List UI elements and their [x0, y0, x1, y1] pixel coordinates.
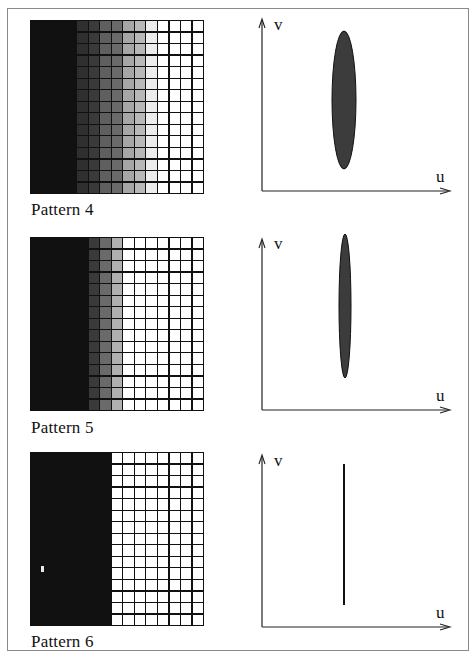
grid-cell [170, 90, 180, 100]
grid-cell [31, 21, 41, 31]
grid-cell [112, 377, 122, 387]
grid-cell [193, 476, 203, 486]
grid-cell [181, 615, 191, 625]
grid-cell [146, 296, 156, 306]
grid-cell [31, 113, 41, 123]
grid-cell [66, 592, 76, 602]
grid-cell [77, 102, 87, 112]
grid-cell [123, 353, 133, 363]
grid-cell [193, 21, 203, 31]
grid-cell [181, 557, 191, 567]
grid-cell [158, 342, 168, 352]
spectrum-svg: v u [250, 228, 460, 418]
grid-cell [146, 545, 156, 555]
grid-cell [89, 284, 99, 294]
grid-cell [77, 365, 87, 375]
grid-cell [43, 592, 53, 602]
grid-cell [100, 499, 110, 509]
grid-cell [123, 56, 133, 66]
grid-cell [100, 400, 110, 410]
grid-cell [77, 171, 87, 181]
grid-cell [181, 388, 191, 398]
grid-cell [193, 273, 203, 283]
grid-cell [181, 488, 191, 498]
grid-cell [43, 534, 53, 544]
grid-cell [146, 21, 156, 31]
grid-cell [43, 21, 53, 31]
grid-cell [146, 67, 156, 77]
grid-cell [135, 388, 145, 398]
grid-cell [158, 79, 168, 89]
grid-cell [193, 522, 203, 532]
grid-cell [43, 136, 53, 146]
grid-cell [54, 261, 64, 271]
grid-cell [43, 545, 53, 555]
grid-cell [135, 261, 145, 271]
grid-cell [54, 284, 64, 294]
grid-cell [100, 465, 110, 475]
grid-cell [158, 365, 168, 375]
grid-cell [181, 307, 191, 317]
grid-cell [100, 568, 110, 578]
grid-cell [123, 580, 133, 590]
grid-cell [66, 330, 76, 340]
grid-cell [193, 284, 203, 294]
grid-cell [193, 465, 203, 475]
grid-cell [193, 307, 203, 317]
grid-cell [54, 148, 64, 158]
grid-cell [54, 534, 64, 544]
grid-cell [158, 545, 168, 555]
grid-cell [181, 545, 191, 555]
grid-cell [123, 284, 133, 294]
grid-cell [54, 365, 64, 375]
grid-cell [43, 453, 53, 463]
grid-cell [89, 545, 99, 555]
grid-cell [135, 534, 145, 544]
grid-cell [170, 511, 180, 521]
grid-cell [66, 568, 76, 578]
grid-cell [158, 273, 168, 283]
grid-cell [193, 592, 203, 602]
grid-cell [43, 476, 53, 486]
grid-cell [54, 388, 64, 398]
grid-cell [170, 67, 180, 77]
grid-cell [193, 125, 203, 135]
grid-cell [112, 330, 122, 340]
grid-cell [181, 603, 191, 613]
grid-cell [77, 592, 87, 602]
grid-cell [170, 557, 180, 567]
grid-cell [54, 615, 64, 625]
grid-cell [43, 330, 53, 340]
grid-cell [77, 136, 87, 146]
grid-cell [170, 33, 180, 43]
spectrum-svg: v u [250, 444, 460, 634]
grid-cell [146, 511, 156, 521]
grid-cell [43, 261, 53, 271]
grid-cell [89, 353, 99, 363]
grid-cell [112, 511, 122, 521]
grid-cell [54, 580, 64, 590]
grid-cell [100, 160, 110, 170]
grid-cell [123, 557, 133, 567]
grid-cell [43, 90, 53, 100]
grid-cell [181, 476, 191, 486]
grid-cell [89, 534, 99, 544]
grid-cell [31, 33, 41, 43]
grid-cell [112, 465, 122, 475]
grid-cell [112, 238, 122, 248]
grid-cell [181, 148, 191, 158]
grid-cell [146, 568, 156, 578]
grid-cell [43, 284, 53, 294]
grid-cell [66, 499, 76, 509]
grid-cell [146, 476, 156, 486]
grid-cell [135, 21, 145, 31]
grid-cell [135, 67, 145, 77]
grid-cell [123, 250, 133, 260]
grid-cell [158, 33, 168, 43]
grid-cell [146, 250, 156, 260]
grid-cell [54, 522, 64, 532]
grid-cell [123, 296, 133, 306]
grid-cell [170, 534, 180, 544]
grid-cell [170, 453, 180, 463]
grid-cell [135, 44, 145, 54]
